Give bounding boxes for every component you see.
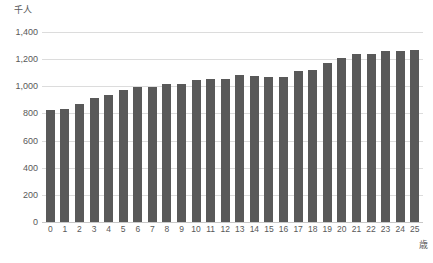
x-axis-tick-label: 17 <box>291 224 306 234</box>
x-axis-tick-label: 8 <box>160 224 175 234</box>
y-axis-tick-label: 1,400 <box>15 27 38 37</box>
bar[interactable] <box>235 75 244 222</box>
gridline <box>42 222 423 223</box>
x-axis-tick-label: 25 <box>407 224 422 234</box>
y-axis-tick-label: 1,000 <box>15 81 38 91</box>
bar[interactable] <box>221 79 230 222</box>
bar-slot <box>393 32 408 222</box>
x-axis-tick-label: 1 <box>58 224 73 234</box>
y-axis-tick-label: 600 <box>23 136 38 146</box>
bar[interactable] <box>75 104 84 222</box>
y-axis-tick-labels: 1,4001,2001,0008006004002000 <box>0 32 38 222</box>
bar[interactable] <box>46 110 55 222</box>
y-axis-tick-label: 400 <box>23 163 38 173</box>
x-axis-tick-label: 6 <box>130 224 145 234</box>
bar-slot <box>72 32 87 222</box>
bar-slot <box>101 32 116 222</box>
y-axis-tick-label: 1,200 <box>15 54 38 64</box>
bar[interactable] <box>192 80 201 222</box>
x-axis-tick-label: 19 <box>320 224 335 234</box>
bar-slot <box>276 32 291 222</box>
x-axis-tick-label: 2 <box>72 224 87 234</box>
bar-slot <box>145 32 160 222</box>
bar[interactable] <box>133 87 142 222</box>
bar[interactable] <box>352 54 361 222</box>
bar-slot <box>189 32 204 222</box>
x-axis-tick-label: 13 <box>233 224 248 234</box>
x-axis-tick-label: 3 <box>87 224 102 234</box>
x-axis-tick-label: 20 <box>335 224 350 234</box>
bar-slot <box>407 32 422 222</box>
x-axis-tick-label: 23 <box>378 224 393 234</box>
bar[interactable] <box>294 71 303 222</box>
bar-chart: 千人 1,4001,2001,0008006004002000 01234567… <box>0 0 433 263</box>
x-axis-tick-label: 7 <box>145 224 160 234</box>
bar-slot <box>160 32 175 222</box>
x-axis-tick-labels: 0123456789101112131415161718192021222324… <box>42 224 423 234</box>
x-axis-tick-label: 15 <box>262 224 277 234</box>
x-axis-tick-label: 4 <box>101 224 116 234</box>
bar-slot <box>130 32 145 222</box>
bar[interactable] <box>177 84 186 222</box>
bar[interactable] <box>337 58 346 222</box>
y-axis-tick-label: 0 <box>33 217 38 227</box>
x-axis-tick-label: 22 <box>364 224 379 234</box>
x-axis-tick-label: 10 <box>189 224 204 234</box>
bar-series <box>42 32 423 222</box>
bar-slot <box>116 32 131 222</box>
bar-slot <box>291 32 306 222</box>
bar-slot <box>335 32 350 222</box>
x-axis-tick-label: 0 <box>43 224 58 234</box>
x-axis-tick-label: 16 <box>276 224 291 234</box>
bar-slot <box>87 32 102 222</box>
bar-slot <box>262 32 277 222</box>
bar-slot <box>305 32 320 222</box>
x-axis-tick-label: 24 <box>393 224 408 234</box>
x-axis-unit-label: 歳 <box>419 240 428 250</box>
bar[interactable] <box>279 77 288 222</box>
bar[interactable] <box>119 90 128 222</box>
y-axis-tick-label: 800 <box>23 108 38 118</box>
bar[interactable] <box>323 63 332 222</box>
bar-slot <box>364 32 379 222</box>
bar[interactable] <box>148 87 157 222</box>
bar[interactable] <box>60 109 69 222</box>
bar[interactable] <box>104 95 113 222</box>
x-axis-tick-label: 14 <box>247 224 262 234</box>
bar-slot <box>43 32 58 222</box>
bar-slot <box>203 32 218 222</box>
bar[interactable] <box>162 84 171 222</box>
bar-slot <box>233 32 248 222</box>
x-axis-tick-label: 21 <box>349 224 364 234</box>
bar-slot <box>218 32 233 222</box>
bar[interactable] <box>396 51 405 222</box>
y-axis-tick-label: 200 <box>23 190 38 200</box>
y-axis-unit-label: 千人 <box>14 5 32 16</box>
bar[interactable] <box>250 76 259 222</box>
bar-slot <box>349 32 364 222</box>
bar[interactable] <box>264 77 273 222</box>
bar[interactable] <box>410 50 419 222</box>
plot-area <box>42 32 423 222</box>
bar[interactable] <box>206 79 215 222</box>
x-axis-tick-label: 9 <box>174 224 189 234</box>
bar-slot <box>247 32 262 222</box>
bar[interactable] <box>381 51 390 222</box>
x-axis-tick-label: 12 <box>218 224 233 234</box>
bar-slot <box>378 32 393 222</box>
x-axis-tick-label: 11 <box>203 224 218 234</box>
bar[interactable] <box>90 98 99 222</box>
bar-slot <box>320 32 335 222</box>
x-axis-tick-label: 18 <box>305 224 320 234</box>
bar-slot <box>174 32 189 222</box>
bar-slot <box>58 32 73 222</box>
bar[interactable] <box>367 54 376 222</box>
x-axis-tick-label: 5 <box>116 224 131 234</box>
bar[interactable] <box>308 70 317 222</box>
